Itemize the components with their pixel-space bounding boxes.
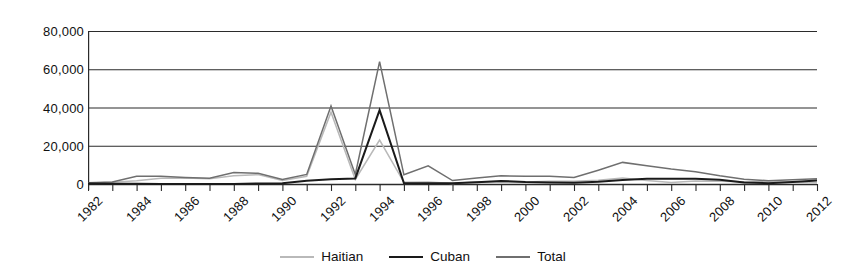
x-axis-tick-label: 2010 [754, 193, 786, 225]
x-axis-tick-label: 1998 [463, 193, 495, 225]
x-axis: 1982198419861988199019921994199619982000… [0, 0, 846, 278]
x-axis-tick-label: 1988 [220, 193, 252, 225]
line-chart: 80,00060,00040,00020,0000 19821984198619… [0, 0, 846, 278]
x-axis-tick-label: 2004 [609, 193, 641, 225]
legend-label: Total [537, 250, 566, 264]
x-axis-tick-label: 2008 [706, 193, 738, 225]
legend-item-haitian[interactable]: Haitian [280, 250, 363, 264]
x-axis-tick-label: 2002 [560, 193, 592, 225]
x-axis-tick-label: 1996 [414, 193, 446, 225]
legend-item-cuban[interactable]: Cuban [389, 250, 470, 264]
legend-swatch-cuban [389, 256, 423, 258]
x-axis-tick-label: 1992 [317, 193, 349, 225]
x-axis-tick-label: 1990 [268, 193, 300, 225]
x-axis-tick-label: 1994 [366, 193, 398, 225]
x-axis-tick-label: 2006 [657, 193, 689, 225]
x-axis-tick-label: 2000 [511, 193, 543, 225]
legend-label: Cuban [430, 250, 470, 264]
legend-swatch-haitian [280, 256, 314, 258]
x-axis-tick-label: 1986 [171, 193, 203, 225]
legend-swatch-total [496, 256, 530, 258]
legend-label: Haitian [321, 250, 363, 264]
chart-legend: HaitianCubanTotal [0, 250, 846, 264]
x-axis-tick-label: 1984 [123, 193, 155, 225]
x-axis-tick-label: 1982 [74, 193, 106, 225]
legend-item-total[interactable]: Total [496, 250, 566, 264]
x-axis-tick-label: 2012 [803, 193, 835, 225]
